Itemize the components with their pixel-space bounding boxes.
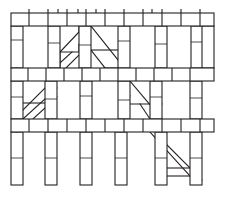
post-l3-body	[80, 132, 92, 185]
lower-rail-body	[11, 119, 214, 132]
post-u2	[48, 26, 60, 68]
post-u5	[155, 26, 167, 68]
post-u3-body	[79, 26, 91, 68]
post-l2-body	[45, 132, 57, 185]
post-m6-body	[190, 81, 202, 119]
post-l5	[155, 132, 167, 185]
post-u6-body	[191, 26, 203, 68]
post-u6	[191, 26, 203, 68]
post-l2	[45, 132, 57, 185]
post-u5-body	[155, 26, 167, 68]
lower-rail	[11, 119, 214, 132]
post-l1	[11, 132, 23, 185]
post-u4-body	[118, 26, 130, 68]
middle-rail-body	[11, 68, 214, 81]
post-m3-body	[80, 81, 92, 119]
post-m1	[11, 81, 23, 119]
scaffolding-svg: Scaffolding frame line drawing	[0, 0, 225, 197]
post-l4-body	[115, 132, 127, 185]
post-m3	[80, 81, 92, 119]
post-u1	[11, 26, 23, 68]
post-m1-body	[11, 81, 23, 119]
post-u3	[79, 26, 91, 68]
post-u1-body	[11, 26, 23, 68]
post-u7	[202, 26, 214, 68]
post-m4	[118, 81, 130, 119]
middle-rail	[11, 68, 214, 81]
post-u2-body	[48, 26, 60, 68]
post-l6-body	[190, 132, 202, 185]
post-l4	[115, 132, 127, 185]
post-l5-body	[155, 132, 167, 185]
post-l6	[190, 132, 202, 185]
top-rail-body	[11, 13, 214, 26]
post-m2-body	[45, 81, 57, 119]
top-rail	[11, 13, 214, 26]
post-u4	[118, 26, 130, 68]
post-m6	[190, 81, 202, 119]
post-u7-body	[202, 26, 214, 68]
post-m5-body	[150, 81, 162, 119]
post-m2	[45, 81, 57, 119]
post-l1-body	[11, 132, 23, 185]
post-l3	[80, 132, 92, 185]
scaffolding-drawing: Scaffolding frame line drawing	[0, 0, 225, 197]
post-m5	[150, 81, 162, 119]
